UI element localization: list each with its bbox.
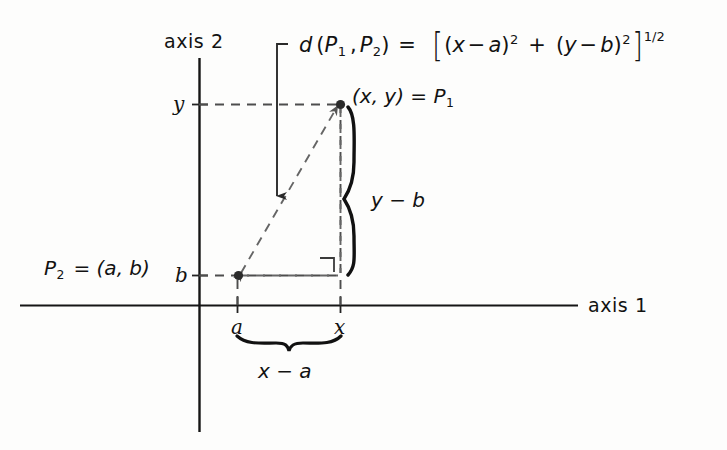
- formula-t1-x: x: [452, 33, 464, 57]
- point-p1-subscript: 1: [446, 95, 454, 110]
- formula-t1-close: ): [501, 33, 509, 57]
- formula-leader-line: [277, 44, 288, 196]
- formula-close-paren: ): [381, 33, 389, 57]
- tick-label-b: b: [175, 265, 188, 285]
- formula-t2-open: (: [556, 33, 564, 57]
- tick-marks: [192, 105, 341, 314]
- formula-right-bracket: ]: [632, 28, 643, 62]
- point-p1-label: (x, y) = P1: [352, 86, 454, 109]
- point-p2-label: P2= (a, b): [44, 258, 159, 281]
- tick-label-a: a: [231, 317, 243, 337]
- axis-2-number: 2: [211, 30, 224, 52]
- formula-open-paren: (: [316, 33, 324, 57]
- axis-1-word: axis: [588, 294, 628, 316]
- point-p1-text: (x, y) = P: [352, 84, 446, 108]
- axis-1-label: axis1: [588, 296, 648, 315]
- horizontal-brace: [237, 336, 341, 351]
- axis-2-word: axis: [164, 30, 204, 52]
- formula-comma: ,: [350, 33, 357, 57]
- triangle-dashed: [240, 107, 341, 276]
- formula-plus: +: [528, 33, 546, 57]
- formula-t2-b: b: [600, 33, 613, 57]
- point-p2-subscript: 2: [57, 267, 65, 282]
- vertical-leg-text: y − b: [371, 188, 425, 212]
- euclidean-distance-diagram: axis2 axis1 y b a x (x, y) = P1 P2= (a, …: [0, 0, 727, 450]
- axis-2-label: axis2: [164, 32, 224, 51]
- vertical-leg-label: y − b: [371, 190, 425, 210]
- dashed-guides: [199, 105, 341, 306]
- point-p2-symbol: P: [44, 256, 56, 280]
- formula-t1-a: a: [488, 33, 501, 57]
- formula-p1: P: [325, 33, 338, 57]
- point-p1-dot: [336, 100, 345, 109]
- horizontal-leg-label: x − a: [258, 361, 312, 381]
- distance-formula: d(P1,P2)=[(x−a)2+(y−b)2]1/2: [299, 28, 665, 62]
- axis-1-number: 1: [635, 294, 648, 316]
- right-angle-marker: [320, 258, 334, 272]
- formula-t2-close: ): [614, 33, 622, 57]
- point-p2-dot: [234, 271, 243, 280]
- formula-t2-minus: −: [580, 33, 598, 57]
- tick-label-y: y: [173, 94, 184, 114]
- formula-p2-sub: 2: [373, 44, 381, 59]
- formula-outer-exponent: 1/2: [644, 29, 665, 44]
- formula-t1-exp: 2: [510, 32, 518, 47]
- formula-t1-minus: −: [468, 33, 486, 57]
- diagram-canvas: [0, 0, 727, 450]
- formula-t2-exp: 2: [622, 32, 630, 47]
- vertical-brace: [344, 107, 354, 275]
- formula-t2-y: y: [564, 33, 576, 57]
- point-p2-coords: = (a, b): [73, 256, 149, 280]
- formula-equals: =: [398, 33, 416, 57]
- formula-p1-sub: 1: [338, 44, 346, 59]
- horizontal-leg-text: x − a: [258, 359, 312, 383]
- formula-left-bracket: [: [432, 28, 443, 62]
- tick-label-x: x: [334, 317, 345, 337]
- formula-p2: P: [360, 33, 373, 57]
- formula-d: d: [299, 33, 312, 57]
